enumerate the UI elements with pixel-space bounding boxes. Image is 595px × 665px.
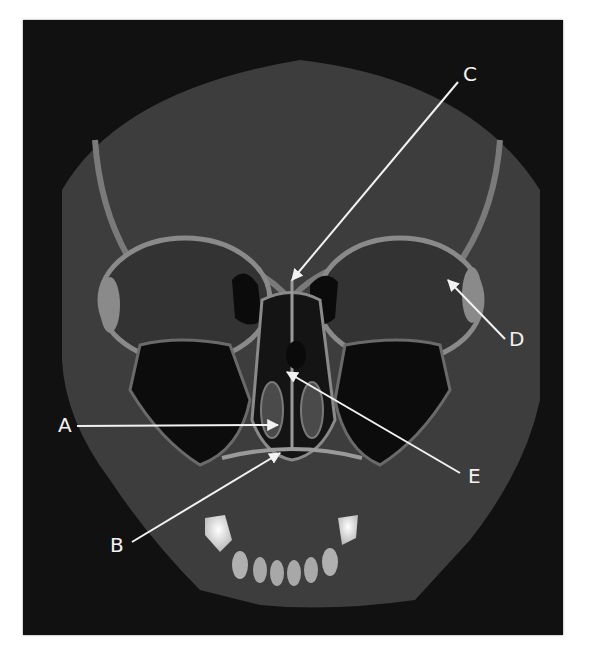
- arrow-a: [77, 425, 278, 426]
- left-turbinate: [261, 382, 283, 438]
- left-zygoma: [100, 277, 120, 333]
- label-c: C: [463, 64, 477, 84]
- ct-scan-image: [0, 0, 595, 665]
- label-d: D: [509, 329, 524, 349]
- right-zygoma: [462, 267, 482, 323]
- label-e: E: [468, 466, 481, 486]
- label-b: B: [110, 535, 124, 555]
- middle-meatus-air: [286, 341, 306, 369]
- label-a: A: [58, 415, 72, 435]
